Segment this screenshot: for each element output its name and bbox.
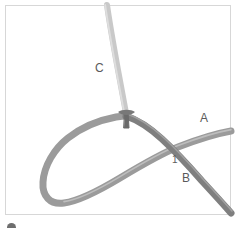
knot-figure: C A B 1 (0, 0, 237, 228)
strand-label-a: A (200, 112, 208, 124)
strand-label-b: B (182, 172, 190, 184)
cropped-bullet-marker (7, 223, 16, 228)
crossing-label-1: 1 (172, 155, 178, 165)
strand-label-c: C (95, 62, 104, 74)
